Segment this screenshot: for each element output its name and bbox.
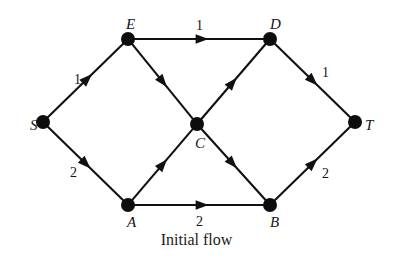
node-d [263,32,277,46]
node-b [263,198,277,212]
edge-a-to-c [132,129,193,201]
node-a [121,198,135,212]
edge-flow-label-s-a: 2 [70,166,77,180]
node-e [121,32,135,46]
edge-flow-label-b-t: 2 [322,167,329,181]
node-label-e: E [126,17,135,32]
node-layer [36,32,362,212]
node-label-s: S [30,118,38,133]
edge-e-to-d [134,34,264,44]
edge-c-to-b [201,128,266,200]
arrow-head-icon [196,200,209,210]
edge-b-to-t [274,126,350,201]
edge-flow-label-e-d: 1 [196,19,203,33]
edge-flow-label-a-b: 2 [196,215,203,229]
edge-a-to-b [134,200,264,210]
edge-d-to-t [274,43,350,118]
edge-s-to-e [47,43,123,118]
node-label-b: B [270,215,279,230]
figure-caption: Initial flow [0,232,393,248]
edge-s-to-a [47,126,123,201]
edge-e-to-c [132,44,193,120]
node-label-d: D [270,17,281,32]
edge-flow-label-d-t: 1 [322,66,329,80]
node-label-c: C [195,136,205,151]
arrow-head-icon [196,34,209,44]
edge-flow-label-s-e: 1 [74,73,81,87]
edge-c-to-d [201,44,266,120]
network-flow-figure: SEDCABT 121212 Initial flow [0,0,393,257]
node-label-t: T [365,118,373,133]
node-t [348,115,362,129]
node-c [190,117,204,131]
node-s [36,115,50,129]
node-label-a: A [127,215,136,230]
